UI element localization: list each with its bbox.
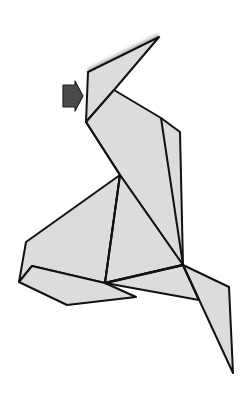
origami-seal-figure (0, 0, 248, 395)
seal-body (19, 37, 233, 373)
push-arrow-icon (63, 81, 83, 111)
origami-diagram (0, 0, 248, 395)
